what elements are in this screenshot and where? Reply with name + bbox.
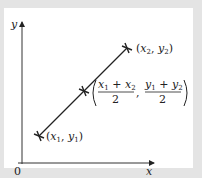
svg-text:y1 + y2: y1 + y2: [144, 78, 183, 92]
origin-label: 0: [14, 165, 21, 178]
y-axis-label: y: [10, 18, 18, 31]
midpoint-label: x1 + x2 2 , y1 + y2 2: [93, 78, 187, 106]
svg-text:2: 2: [159, 93, 166, 106]
x-axis-label: x: [146, 165, 153, 178]
point-1-label: (x1, y1): [46, 130, 83, 144]
svg-text:x1 + x2: x1 + x2: [98, 78, 136, 92]
svg-text:2: 2: [112, 93, 119, 106]
point-2-label: (x2, y2): [136, 42, 173, 56]
midpoint-diagram: y x 0 (x1, y1) (x2, y2) x1 + x2 2 , y1 +…: [0, 0, 202, 178]
svg-text:,: ,: [136, 86, 140, 99]
